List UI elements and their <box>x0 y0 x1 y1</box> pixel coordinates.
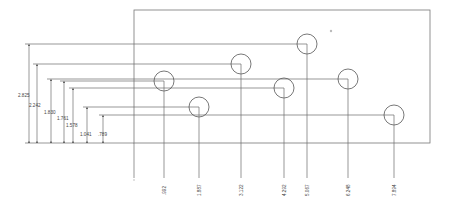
x-dim-label: 4.292 <box>282 184 287 196</box>
x-dim-label: .992 <box>162 186 167 195</box>
y-dim-label: 2.825 <box>18 93 30 98</box>
y-dim-label: 1.830 <box>44 110 56 115</box>
x-dim-label: 6.248 <box>346 184 351 196</box>
y-dim-label: 2.242 <box>29 103 41 108</box>
smudge-mark <box>330 30 332 32</box>
origin-marker <box>133 179 135 181</box>
y-dim-label: .789 <box>98 132 107 137</box>
x-dim-label: 7.894 <box>392 184 397 196</box>
y-dim-label: 1.761 <box>57 116 69 121</box>
plate-outline <box>134 10 430 143</box>
x-dim-label: 5.067 <box>305 184 310 196</box>
y-extension-lines <box>25 44 394 115</box>
holes <box>154 34 404 125</box>
drawing-canvas: 2.825 2.242 1.830 1.761 1.578 1.041 .789… <box>0 0 450 203</box>
x-dim-label: 1.887 <box>197 184 202 196</box>
y-dim-label: 1.578 <box>66 123 78 128</box>
x-dim-label: 3.122 <box>239 184 244 196</box>
y-dim-label: 1.041 <box>80 132 92 137</box>
